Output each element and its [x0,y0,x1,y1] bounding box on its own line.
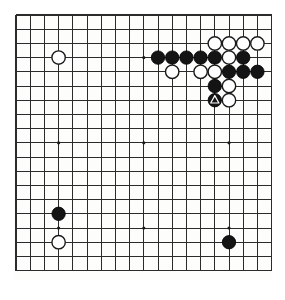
white-stone[interactable] [222,37,235,50]
white-stone[interactable] [222,51,235,64]
star-point [142,56,145,59]
white-stone[interactable] [237,37,250,50]
star-point [57,141,60,144]
black-stone[interactable] [222,65,235,78]
star-point [227,226,230,229]
black-stone[interactable] [237,51,250,64]
black-stone[interactable] [166,51,179,64]
star-point [142,141,145,144]
white-stone[interactable] [222,79,235,92]
white-stone[interactable] [208,37,221,50]
white-stone[interactable] [194,65,207,78]
black-stone[interactable] [180,51,193,64]
black-stone[interactable] [208,94,221,107]
black-stone[interactable] [208,79,221,92]
star-point [227,141,230,144]
black-stone[interactable] [237,65,250,78]
white-stone[interactable] [52,236,65,249]
black-stone[interactable] [208,51,221,64]
black-stone[interactable] [52,207,65,220]
white-stone[interactable] [208,65,221,78]
white-stone[interactable] [251,37,264,50]
black-stone[interactable] [222,236,235,249]
white-stone[interactable] [52,51,65,64]
go-board-container [0,0,285,300]
white-stone[interactable] [222,94,235,107]
black-stone[interactable] [151,51,164,64]
black-stone[interactable] [194,51,207,64]
white-stone[interactable] [166,65,179,78]
black-stone[interactable] [251,65,264,78]
star-point [142,226,145,229]
star-point [57,226,60,229]
go-board[interactable] [0,0,285,300]
